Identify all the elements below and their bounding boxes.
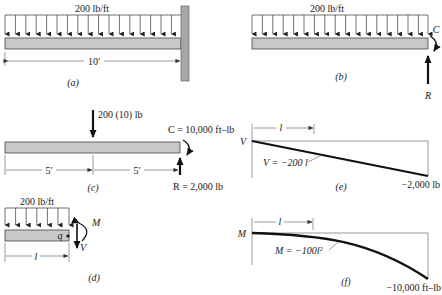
panel-b: 200 lb/ft C R (b) [252,3,440,101]
panel-f-moment-diagram: l M M = −100l² −10,000 ft–lb (f) [237,216,441,293]
reaction-label: R [424,90,431,101]
beam-analysis-diagram: 200 lb/ft 10′ (a) 2 [0,0,442,295]
panel-a-caption: (a) [67,77,79,89]
panel-c: 200 (10) lb C = 10,000 ft–lb R = 2,000 l… [5,109,234,194]
moment-arrow-icon [430,36,436,51]
span-length-label: 10′ [88,56,100,67]
length-label: l [279,216,282,227]
panel-c-caption: (c) [87,182,99,194]
shear-label: V [80,242,88,253]
length-label: l [280,122,283,133]
equivalent-beam [5,142,180,153]
point-load-label: 200 (10) lb [98,109,142,121]
distributed-load-arrows [5,15,171,34]
equation-leader-line [308,155,322,162]
panel-a: 200 lb/ft 10′ (a) [5,3,189,89]
moment-value-label: C = 10,000 ft–lb [168,124,234,135]
distributed-load-label: 200 lb/ft [20,196,54,207]
axis-label: V [240,136,248,147]
moment-arrow-icon [183,140,189,155]
moment-label: C [433,24,440,35]
reaction-value-label: R = 2,000 lb [173,181,223,192]
panel-e-caption: (e) [335,181,347,193]
distributed-load-label: 200 lb/ft [75,3,109,14]
left-span-label: 5′ [45,165,52,176]
moment-arrow-icon [79,223,87,241]
distributed-load-label: 200 lb/ft [310,3,344,14]
panel-d-caption: (d) [88,272,100,284]
equation-leader-line [329,242,338,250]
length-label: l [35,251,38,262]
panel-d: 200 lb/ft q M V l (d) [5,196,101,284]
panel-f-caption: (f) [341,276,351,288]
end-value-label: −2,000 lb [402,179,440,190]
moment-curve [252,233,428,279]
section-point-marker [66,234,69,237]
axis-label: M [237,228,247,239]
equation-label: M = −100l² [274,245,324,256]
panel-b-caption: (b) [335,71,347,83]
equation-label: V = −200 l [263,157,308,168]
fixed-wall-support [181,6,189,81]
distributed-load-arrows [5,208,69,225]
end-value-label: −10,000 ft–lb [386,282,441,293]
free-body-beam [252,38,428,49]
panel-e-shear-diagram: l V V = −200 l −2,000 lb (e) [240,122,440,193]
right-span-label: 5′ [133,165,140,176]
section-point-label: q [58,230,63,241]
cantilever-beam [5,38,181,49]
moment-label: M [91,217,101,228]
distributed-load-arrows [252,15,428,34]
